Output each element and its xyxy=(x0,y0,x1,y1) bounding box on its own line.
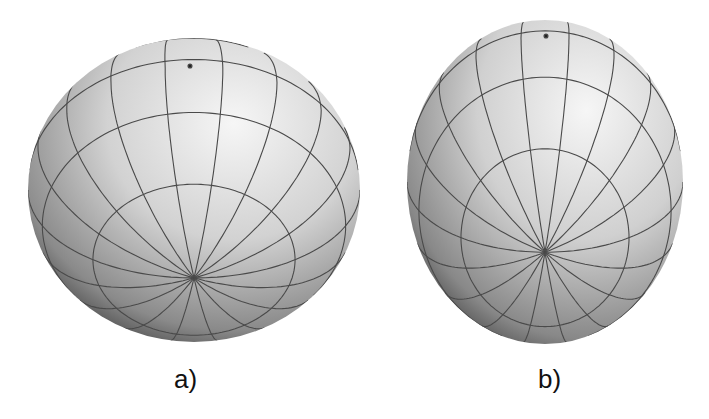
panel-label-a: a) xyxy=(174,366,197,392)
pole-point xyxy=(544,34,548,38)
spheroid-figure xyxy=(0,0,709,419)
panel-label-b: b) xyxy=(538,366,561,392)
pole-point xyxy=(188,64,192,68)
oblate-spheroid-a xyxy=(28,38,360,342)
prolate-spheroid-b xyxy=(407,20,683,344)
